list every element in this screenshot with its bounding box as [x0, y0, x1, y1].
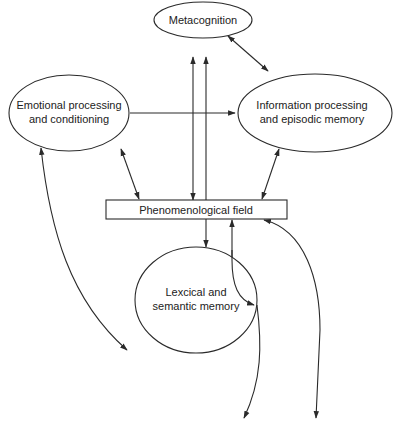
node-information: Information processing and episodic memo…: [238, 74, 392, 152]
edge-phenomenological-external-bottom-right: [264, 220, 320, 418]
node-emotional: Emotional processing and conditioning: [9, 75, 129, 151]
node-metacognition-label: Metacognition: [169, 14, 238, 26]
node-metacognition: Metacognition: [154, 2, 252, 38]
node-phenomenological-label: Phenomenological field: [139, 204, 253, 216]
node-information-label-line2: and episodic memory: [260, 113, 365, 125]
diagram-canvas: Metacognition Emotional processing and c…: [0, 0, 401, 434]
edge-emotional-external-lower-left: [41, 148, 127, 350]
node-emotional-label-line1: Emotional processing: [16, 99, 121, 111]
node-emotional-label-line2: and conditioning: [29, 113, 109, 125]
edge-emotional-phenomenological: [121, 149, 139, 199]
node-lexical-label-line1: Lexcical and: [165, 286, 226, 298]
edge-information-phenomenological: [262, 149, 279, 199]
node-lexical-label-line2: semantic memory: [153, 300, 240, 312]
node-phenomenological: Phenomenological field: [106, 200, 287, 219]
edge-metacognition-information: [228, 36, 268, 71]
node-lexical: Lexcical and semantic memory: [135, 247, 257, 353]
node-information-label-line1: Information processing: [256, 99, 367, 111]
